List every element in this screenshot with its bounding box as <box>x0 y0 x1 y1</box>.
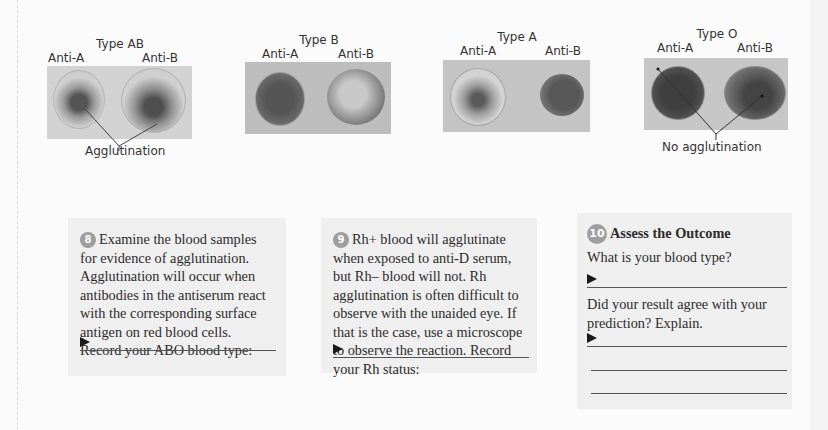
step-8-box: 8Examine the blood samples for evidence … <box>68 218 286 376</box>
step-10-heading: 10Assess the Outcome <box>587 224 782 244</box>
step-number-badge: 10 <box>587 224 607 244</box>
answer-arrow-icon <box>587 333 597 343</box>
anti-b-label: Anti-B <box>142 51 178 65</box>
figure-title: Type A <box>442 30 592 44</box>
abo-blood-type-answer-field[interactable] <box>80 336 276 351</box>
figure-caption: No agglutination <box>662 140 762 154</box>
sample-photo <box>47 66 192 139</box>
prediction-answer-line-2[interactable] <box>591 370 787 371</box>
figure-type-b: Type B Anti-A Anti-B <box>240 28 390 138</box>
question-prediction: Did your result agree with your predicti… <box>587 295 772 332</box>
figure-type-ab: Type AB Anti-A Anti-B Agglutination <box>45 28 195 158</box>
section-heading: Assess the Outcome <box>610 225 731 241</box>
anti-a-drop-agglutinated <box>450 68 506 126</box>
anti-b-label: Anti-B <box>338 47 374 61</box>
question-blood-type: What is your blood type? <box>587 248 782 267</box>
figure-title: Type O <box>642 27 792 41</box>
step-number-badge: 8 <box>80 232 96 248</box>
pointer-lines <box>47 66 192 156</box>
anti-a-label: Anti-A <box>48 51 84 65</box>
sample-photo <box>245 62 391 134</box>
blood-type-answer-field[interactable] <box>587 273 787 288</box>
sample-photo <box>443 60 590 132</box>
anti-a-drop-smooth <box>255 72 305 126</box>
figure-type-o: Type O Anti-A Anti-B No agglutination <box>640 28 790 158</box>
anti-b-label: Anti-B <box>545 44 581 58</box>
page-edge <box>810 0 828 430</box>
answer-arrow-icon <box>333 344 343 354</box>
step-9-box: 9Rh+ blood will agglutinate when exposed… <box>321 218 537 373</box>
figure-caption: Agglutination <box>85 144 165 158</box>
anti-a-label: Anti-A <box>657 41 693 55</box>
answer-arrow-icon <box>587 274 597 284</box>
figure-title: Type AB <box>45 37 195 51</box>
rh-status-answer-field[interactable] <box>333 343 529 358</box>
anti-b-drop-agglutinated <box>327 69 385 125</box>
anti-b-label: Anti-B <box>737 41 773 55</box>
prediction-answer-field[interactable] <box>587 332 787 347</box>
sample-photo <box>644 58 788 130</box>
answer-arrow-icon <box>80 337 90 347</box>
prediction-answer-line-3[interactable] <box>591 393 787 394</box>
step-10-box: 10Assess the Outcome What is your blood … <box>577 213 792 409</box>
figure-title: Type B <box>244 33 394 47</box>
page-margin-guide <box>17 0 18 430</box>
step-number-badge: 9 <box>333 232 349 248</box>
anti-b-drop-smooth <box>540 74 584 116</box>
anti-a-label: Anti-A <box>460 44 496 58</box>
pointer-lines <box>644 58 788 148</box>
anti-a-label: Anti-A <box>262 47 298 61</box>
figure-type-a: Type A Anti-A Anti-B <box>440 28 590 138</box>
